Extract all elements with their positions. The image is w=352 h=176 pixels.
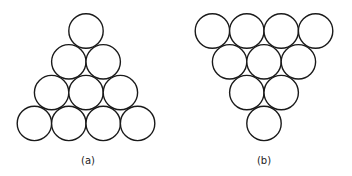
circle-b-row3-1 [230,75,264,109]
circle-b-row4-1 [247,106,281,140]
circle-b-row1-4 [298,14,332,48]
circle-a-row1-1 [69,14,103,48]
figure-b-caption: (b) [257,155,271,166]
circle-b-row2-1 [212,45,246,79]
figure-a-caption: (a) [81,155,95,166]
circle-b-row1-2 [230,14,264,48]
circle-b-row1-1 [195,14,229,48]
circle-a-row2-2 [86,45,120,79]
figure-a-triangle-up [17,14,155,141]
circle-a-row4-1 [17,106,51,140]
circle-a-row2-1 [52,45,86,79]
circle-a-row4-4 [120,106,154,140]
circle-a-row3-1 [34,75,68,109]
circle-b-row2-3 [281,45,315,79]
circle-b-row3-2 [264,75,298,109]
figure-b-triangle-down [195,14,333,141]
circle-a-row3-2 [69,75,103,109]
circle-b-row1-3 [264,14,298,48]
circle-packing-diagram: (a) (b) [0,0,352,176]
circle-a-row4-2 [52,106,86,140]
circle-a-row3-3 [103,75,137,109]
circle-a-row4-3 [86,106,120,140]
circle-b-row2-2 [247,45,281,79]
